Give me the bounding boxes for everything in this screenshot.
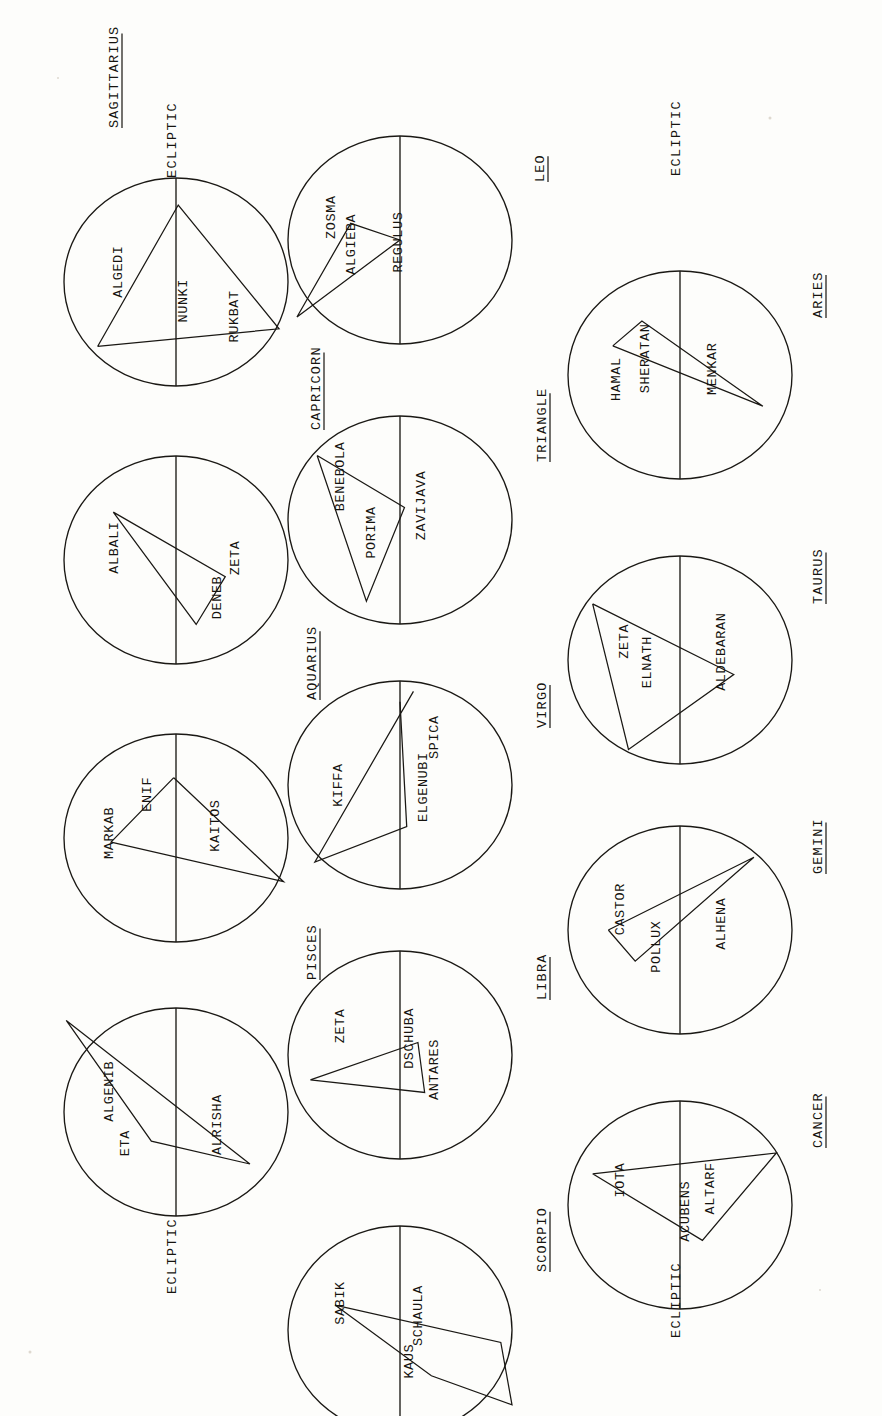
constellation-plate: ALGEDINUNKIRUKBATALBALIDENEBZETAMARKABEN… bbox=[0, 0, 882, 1416]
star-label: ANTARES bbox=[427, 1039, 442, 1100]
star-label: ELNATH bbox=[640, 636, 655, 688]
star-label: NUNKI bbox=[176, 279, 191, 323]
constellation-caption: TRIANGLE bbox=[535, 388, 550, 462]
star-label: BENEBOLA bbox=[333, 441, 348, 511]
star-label: PORIMA bbox=[364, 506, 379, 559]
star-label: HAMAL bbox=[609, 357, 624, 401]
constellation-pattern bbox=[608, 857, 754, 961]
constellation-libra: ZETADSCHUBAANTARES bbox=[288, 951, 512, 1159]
constellation-name: TAURUS bbox=[811, 548, 826, 604]
constellation-pattern bbox=[113, 512, 225, 624]
scan-speck bbox=[29, 1351, 32, 1354]
constellation-caption: PISCES bbox=[305, 924, 320, 980]
constellation-name: SAGITTARIUS bbox=[107, 26, 122, 128]
constellation-caption: CANCER bbox=[811, 1092, 826, 1148]
star-label: ALGENIB bbox=[102, 1061, 117, 1122]
constellation-name: GEMINI bbox=[811, 818, 826, 874]
ecliptic-label: ECLIPTIC bbox=[669, 100, 684, 176]
constellation-caption: SAGITTARIUS bbox=[107, 26, 122, 128]
star-label: ACUBENS bbox=[678, 1181, 693, 1242]
constellation-name: ARIES bbox=[811, 271, 826, 318]
constellation-pattern bbox=[315, 691, 414, 862]
star-label: CASTOR bbox=[613, 883, 628, 935]
star-label: REGULUS bbox=[391, 212, 406, 273]
star-label: ALGIEBA bbox=[344, 213, 359, 274]
constellation-name: CAPRICORN bbox=[309, 346, 324, 430]
star-label: KIFFA bbox=[331, 763, 346, 807]
constellation-caption: VIRGO bbox=[535, 681, 550, 728]
constellation-virgo: KIFFAELGENUBISPICA bbox=[288, 681, 512, 889]
constellation-aries: HAMALSHERATANMENKAR bbox=[568, 271, 792, 479]
constellation-gemini: CASTORPOLLUXALHENA bbox=[568, 826, 792, 1034]
constellation-name: LIBRA bbox=[535, 953, 550, 1000]
star-label: ZETA bbox=[228, 540, 243, 575]
constellation-caption: SCORPIO bbox=[535, 1207, 550, 1272]
star-label: ALDEBARAN bbox=[714, 613, 729, 691]
constellation-name: LEO bbox=[533, 154, 548, 182]
scan-speck bbox=[819, 1289, 821, 1291]
constellation-pattern bbox=[111, 778, 283, 882]
star-label: ETA bbox=[118, 1130, 133, 1156]
star-label: ZOSMA bbox=[324, 195, 339, 239]
constellation-name: AQUARIUS bbox=[305, 626, 320, 700]
constellation-caption: LIBRA bbox=[535, 953, 550, 1000]
constellation-caption: AQUARIUS bbox=[305, 626, 320, 700]
scan-speck bbox=[769, 117, 772, 120]
ecliptic-label: ECLIPTIC bbox=[669, 1262, 684, 1338]
star-label: KAITOS bbox=[208, 799, 223, 851]
constellation-taurus: ZETAELNATHALDEBARAN bbox=[568, 556, 792, 764]
scan-speck bbox=[57, 77, 59, 79]
star-label: ENIF bbox=[140, 777, 155, 812]
constellation-name: VIRGO bbox=[535, 681, 550, 728]
star-label: ELGENUBI bbox=[416, 752, 431, 822]
star-label: DSCHUBA bbox=[402, 1008, 417, 1069]
constellation-caption: ARIES bbox=[811, 271, 826, 318]
constellation-caption: CAPRICORN bbox=[309, 346, 324, 430]
constellation-name: CANCER bbox=[811, 1092, 826, 1148]
star-label: ALHENA bbox=[714, 897, 729, 950]
star-label: IOTA bbox=[613, 1162, 628, 1197]
star-label: RUKBAT bbox=[227, 290, 242, 342]
star-label: MARKAB bbox=[102, 807, 117, 859]
scanned-page: ALGEDINUNKIRUKBATALBALIDENEBZETAMARKABEN… bbox=[0, 0, 882, 1416]
star-label: ZETA bbox=[333, 1008, 348, 1043]
ecliptic-label: ECLIPTIC bbox=[165, 1218, 180, 1294]
star-label: ALTARF bbox=[703, 1162, 718, 1214]
constellation-aquarius: MARKABENIFKAITOS bbox=[64, 734, 288, 942]
constellation-name: TRIANGLE bbox=[535, 388, 550, 462]
star-label: ALBALI bbox=[107, 521, 122, 573]
star-label: SCHAULA bbox=[411, 1285, 426, 1346]
constellation-name: SCORPIO bbox=[535, 1207, 550, 1272]
constellation-pattern bbox=[593, 604, 734, 750]
constellation-pattern bbox=[317, 456, 404, 602]
constellation-capricorn: ALBALIDENEBZETA bbox=[64, 456, 288, 664]
constellation-drawing: ALGEDINUNKIRUKBATALBALIDENEBZETAMARKABEN… bbox=[0, 0, 882, 1416]
constellation-leo: ZOSMAALGIEBAREGULUS bbox=[288, 136, 512, 344]
constellation-scorpio: SABIKKAUSSCHAULA bbox=[288, 1226, 512, 1416]
star-label: ZAVIJAVA bbox=[414, 470, 429, 540]
ecliptic-label: ECLIPTIC bbox=[165, 102, 180, 178]
star-label: KAUS bbox=[402, 1344, 417, 1379]
star-label: MENKAR bbox=[705, 343, 720, 395]
constellation-name: PISCES bbox=[305, 924, 320, 980]
constellation-caption: GEMINI bbox=[811, 818, 826, 874]
star-label: SABIK bbox=[333, 1281, 348, 1325]
star-label: ALGEDI bbox=[111, 245, 126, 297]
constellation-caption: LEO bbox=[533, 154, 548, 182]
star-label: SHERATAN bbox=[638, 324, 653, 394]
star-label: ZETA bbox=[617, 624, 632, 659]
constellation-pattern bbox=[613, 321, 763, 406]
constellation-pisces: ALGENIBETAALRISHA bbox=[64, 1008, 288, 1216]
star-label: POLLUX bbox=[649, 921, 664, 973]
constellation-caption: TAURUS bbox=[811, 548, 826, 604]
star-label: DENEB bbox=[210, 576, 225, 620]
star-label: SPICA bbox=[427, 715, 442, 759]
constellation-triangle: BENEBOLAPORIMAZAVIJAVA bbox=[288, 416, 512, 624]
constellation-sagittarius: ALGEDINUNKIRUKBAT bbox=[64, 178, 288, 386]
star-label: ALRISHA bbox=[210, 1094, 225, 1155]
